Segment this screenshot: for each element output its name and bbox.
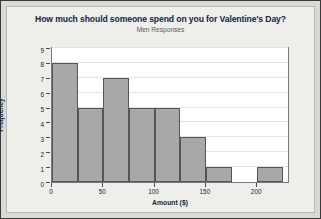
y-tick-mark bbox=[46, 63, 50, 64]
x-axis-title: Amount ($) bbox=[51, 199, 289, 206]
bar bbox=[78, 108, 104, 182]
y-axis: Frequency 0123456789 bbox=[7, 47, 51, 183]
bar bbox=[129, 108, 155, 182]
y-tick-label: 1 bbox=[40, 165, 44, 172]
y-tick-label: 0 bbox=[40, 180, 44, 187]
chart-title-block: How much should someone spend on you for… bbox=[7, 14, 314, 33]
x-tick-mark bbox=[154, 183, 155, 187]
y-tick-mark bbox=[46, 108, 50, 109]
x-tick-label: 0 bbox=[49, 188, 53, 195]
y-tick-label: 9 bbox=[40, 46, 44, 53]
page-title: How much should someone spend on you for… bbox=[7, 14, 314, 24]
y-tick-mark bbox=[46, 167, 50, 168]
x-tick-label: 150 bbox=[200, 188, 211, 195]
y-tick-label: 4 bbox=[40, 120, 44, 127]
y-tick-mark bbox=[46, 182, 50, 183]
y-tick-label: 3 bbox=[40, 135, 44, 142]
y-tick-mark bbox=[46, 48, 50, 49]
chart-subtitle: Men Responses bbox=[7, 26, 314, 33]
y-tick-mark bbox=[46, 122, 50, 123]
y-tick-label: 6 bbox=[40, 91, 44, 98]
bar bbox=[52, 63, 78, 182]
y-tick-label: 8 bbox=[40, 61, 44, 68]
y-tick-mark bbox=[46, 78, 50, 79]
chart-card: How much should someone spend on you for… bbox=[6, 6, 315, 213]
x-tick-mark bbox=[102, 183, 103, 187]
x-tick-label: 200 bbox=[251, 188, 262, 195]
y-tick-mark bbox=[46, 152, 50, 153]
x-tick-mark bbox=[51, 183, 52, 187]
y-tick-mark bbox=[46, 93, 50, 94]
y-tick-label: 7 bbox=[40, 76, 44, 83]
bar bbox=[257, 167, 283, 182]
x-tick-label: 100 bbox=[148, 188, 159, 195]
x-tick-mark bbox=[256, 183, 257, 187]
y-axis-title: Frequency bbox=[0, 98, 4, 131]
y-tick-mark bbox=[46, 137, 50, 138]
y-tick-label: 5 bbox=[40, 106, 44, 113]
bar-series bbox=[52, 48, 288, 182]
bar bbox=[206, 167, 232, 182]
bar bbox=[180, 137, 206, 182]
image-frame: How much should someone spend on you for… bbox=[0, 0, 321, 219]
x-tick-mark bbox=[205, 183, 206, 187]
x-tick-label: 50 bbox=[99, 188, 106, 195]
x-axis: Amount ($) 050100150200 bbox=[51, 183, 289, 213]
bar bbox=[103, 78, 129, 182]
plot-area bbox=[51, 47, 289, 183]
bar bbox=[155, 108, 181, 182]
y-tick-label: 2 bbox=[40, 150, 44, 157]
